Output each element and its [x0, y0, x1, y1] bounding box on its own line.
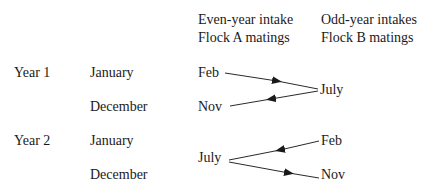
arrow-july-to-nov [230, 91, 318, 106]
arrow-july-to-nov-y2 [229, 162, 319, 178]
mating-flow-arrows [0, 0, 435, 194]
arrow-feb-to-july [225, 73, 318, 89]
arrow-feb-to-july-y2 [229, 141, 319, 160]
